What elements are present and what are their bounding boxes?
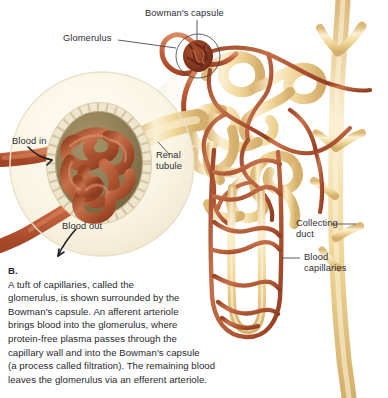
label-renal-tubule: Renal tubule — [156, 150, 182, 173]
caption-line: Bowman's capsule. An afferent arteriole — [8, 305, 240, 319]
caption-line: A tuft of capillaries, called the — [8, 278, 240, 292]
caption-line: capillary wall and into the Bowman's cap… — [8, 346, 240, 360]
caption-line: (a process called filtration). The remai… — [8, 359, 240, 373]
label-blood-capillaries-line1: Blood — [304, 252, 328, 262]
label-renal-tubule-line2: tubule — [156, 161, 182, 171]
caption-line: glomerulus, is shown surrounded by the — [8, 291, 240, 305]
caption-body: A tuft of capillaries, called theglomeru… — [8, 278, 240, 387]
label-glomerulus: Glomerulus — [63, 33, 112, 44]
label-blood-out: Blood out — [62, 221, 102, 232]
label-blood-in: Blood in — [12, 136, 46, 147]
label-renal-tubule-line1: Renal — [156, 150, 181, 160]
label-bowmans-capsule: Bowman's capsule — [145, 8, 224, 19]
label-collecting-duct-line1: Collecting — [296, 218, 338, 228]
label-blood-capillaries-line2: capillaries — [304, 263, 346, 273]
figure-caption: B. A tuft of capillaries, called theglom… — [8, 264, 240, 386]
caption-line: protein-free plasma passes through the — [8, 332, 240, 346]
nephron-figure: Bowman's capsule Glomerulus Renal tubule… — [0, 0, 388, 398]
label-collecting-duct-line2: duct — [296, 229, 314, 239]
glomerulus-tuft — [176, 34, 220, 78]
caption-line: brings blood into the glomerulus, where — [8, 318, 240, 332]
caption-lead: B. — [8, 265, 18, 276]
label-blood-capillaries: Blood capillaries — [304, 252, 346, 275]
caption-line: leaves the glomerulus via an efferent ar… — [8, 373, 240, 387]
label-collecting-duct: Collecting duct — [296, 218, 338, 241]
